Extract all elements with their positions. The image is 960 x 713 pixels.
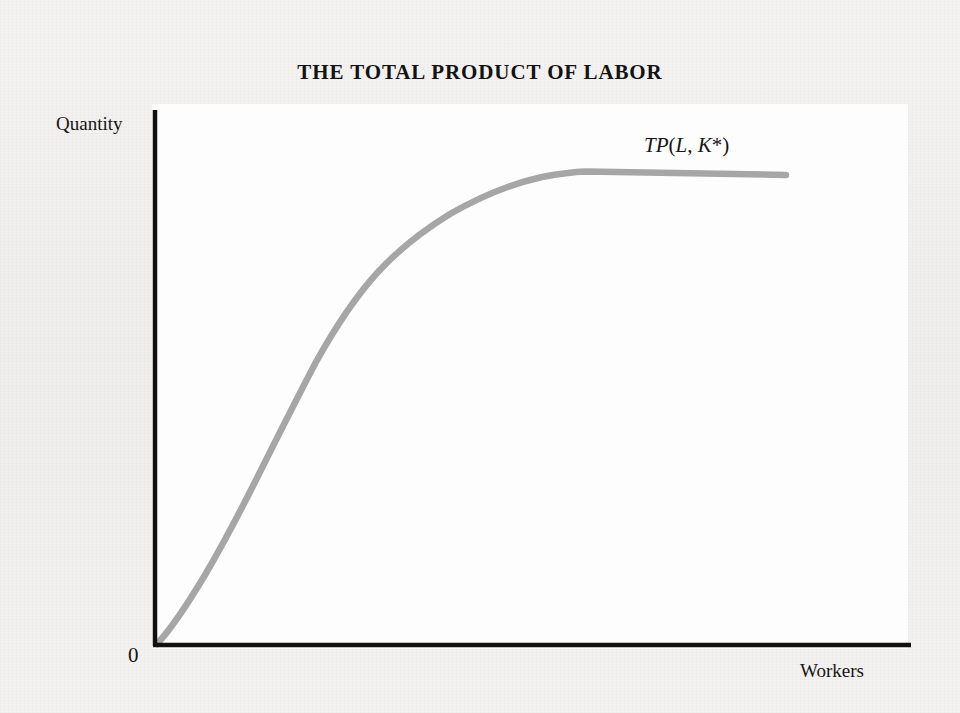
figure-root: THE TOTAL PRODUCT OF LABOR Quantity Work… (0, 0, 960, 713)
x-axis-label: Workers (800, 660, 864, 682)
total-product-curve (157, 172, 786, 645)
y-axis-label: Quantity (56, 113, 123, 135)
origin-label: 0 (128, 643, 139, 668)
curve-label-arg-labor: L (676, 133, 688, 157)
curve-label: TP(L, K*) (644, 133, 729, 158)
curve-label-star: * (712, 133, 723, 157)
curve-label-arg-capital: K (698, 133, 712, 157)
curve-label-function: TP (644, 133, 669, 157)
chart-canvas (0, 0, 960, 713)
curve-label-close-paren: ) (722, 133, 729, 157)
curve-label-open-paren: ( (669, 133, 676, 157)
curve-label-separator: , (687, 133, 698, 157)
